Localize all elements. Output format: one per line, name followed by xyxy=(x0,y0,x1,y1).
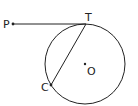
label-o: O xyxy=(87,65,96,78)
point-c-dot xyxy=(50,84,53,87)
point-p-dot xyxy=(12,23,15,26)
chord-tc xyxy=(51,24,86,85)
label-p: P xyxy=(3,18,10,31)
geometry-diagram: P T C O xyxy=(0,0,138,106)
label-c: C xyxy=(41,81,49,94)
label-t: T xyxy=(84,11,92,24)
point-o-dot xyxy=(84,63,86,65)
